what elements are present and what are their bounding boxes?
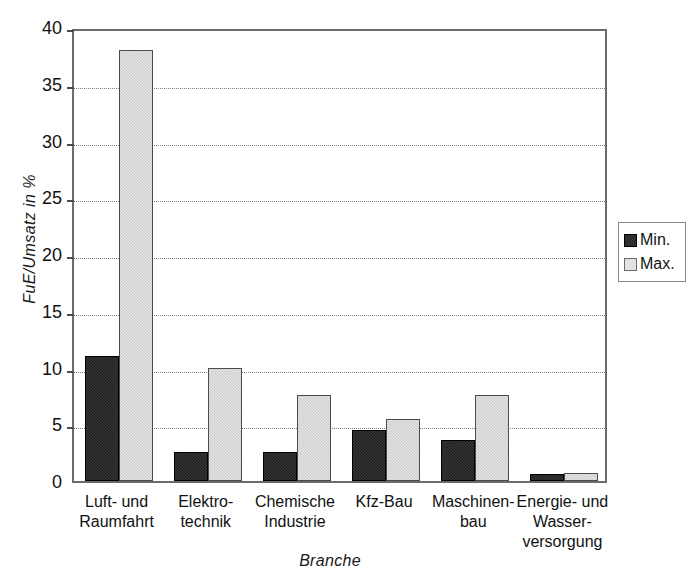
bar-min: [441, 440, 475, 481]
bar-min: [530, 474, 564, 481]
gridline: [74, 428, 605, 429]
y-tick-label: 5: [4, 415, 62, 436]
y-tick-label: 35: [4, 75, 62, 96]
chart-figure: FuE/Umsatz in % 0510152025303540 Luft- u…: [0, 0, 699, 587]
y-tick-mark: [67, 87, 74, 89]
y-tick-label: 15: [4, 302, 62, 323]
y-tick-mark: [67, 257, 74, 259]
x-tick-label-line: Energie- und: [492, 492, 632, 512]
gridline: [74, 258, 605, 259]
legend-item[interactable]: Min.: [624, 228, 681, 252]
bar-max: [564, 473, 598, 481]
y-tick-mark: [67, 371, 74, 373]
x-tick-label: Energie- undWasser-versorgung: [492, 492, 632, 552]
y-tick-label: 30: [4, 132, 62, 153]
gridline: [74, 145, 605, 146]
bar-max: [386, 419, 420, 481]
legend-swatch-min-icon: [624, 234, 637, 247]
x-tick-label-line: versorgung: [492, 532, 632, 552]
gridline: [74, 372, 605, 373]
y-tick-mark: [67, 144, 74, 146]
y-tick-label: 0: [4, 472, 62, 493]
y-tick-label: 20: [4, 245, 62, 266]
bar-max: [119, 50, 153, 481]
legend-swatch-max-icon: [624, 258, 637, 271]
bar-min: [263, 452, 297, 482]
bar-max: [208, 368, 242, 482]
bar-max: [475, 395, 509, 481]
legend-label: Min.: [640, 231, 670, 249]
plot-area: [72, 29, 607, 483]
legend-label: Max.: [640, 255, 675, 273]
gridline: [74, 201, 605, 202]
bar-min: [85, 356, 119, 481]
bar-max: [297, 395, 331, 481]
x-axis-title: Branche: [0, 552, 660, 570]
y-tick-mark: [67, 427, 74, 429]
x-tick-label-line: Wasser-: [492, 512, 632, 532]
y-tick-label: 40: [4, 18, 62, 39]
bar-min: [352, 430, 386, 481]
bar-min: [174, 452, 208, 482]
gridline: [74, 88, 605, 89]
gridline: [74, 315, 605, 316]
y-tick-label: 10: [4, 359, 62, 380]
y-tick-label: 25: [4, 188, 62, 209]
legend: Min.Max.: [618, 222, 686, 282]
y-tick-mark: [67, 30, 74, 32]
legend-item[interactable]: Max.: [624, 252, 681, 276]
y-tick-mark: [67, 200, 74, 202]
x-tick-label-line: Industrie: [225, 512, 365, 532]
y-tick-mark: [67, 314, 74, 316]
